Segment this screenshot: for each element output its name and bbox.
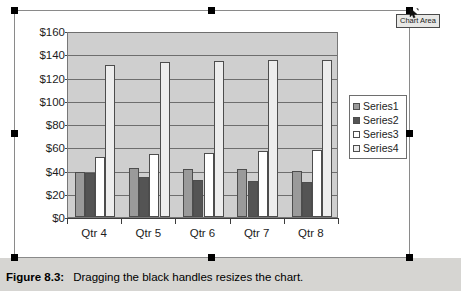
bar-series2-qtr-7[interactable] [248, 181, 258, 217]
bar-series3-qtr-4[interactable] [95, 157, 105, 217]
y-axis-tick-label: $80 [19, 120, 65, 131]
bar-series3-qtr-8[interactable] [312, 150, 322, 217]
x-axis-label-qtr-8: Qtr 8 [284, 227, 338, 240]
figure-caption-text: Dragging the black handles resizes the c… [73, 271, 303, 283]
x-axis-line [67, 218, 339, 219]
legend-swatch-icon [353, 103, 360, 110]
bar-series1-qtr-5[interactable] [129, 168, 139, 217]
chart-object[interactable]: $0$20$40$60$80$100$120$140$160 Series1Se… [14, 10, 410, 258]
y-axis-tick-label: $100 [19, 97, 65, 108]
x-axis-label-qtr-4: Qtr 4 [67, 227, 121, 240]
bar-series4-qtr-5[interactable] [160, 62, 170, 217]
bar-series4-qtr-6[interactable] [214, 61, 224, 217]
plot-area[interactable] [67, 32, 338, 218]
x-axis-label-qtr-5: Qtr 5 [121, 227, 175, 240]
x-axis-label-qtr-6: Qtr 6 [175, 227, 229, 240]
resize-handle-top-left[interactable] [11, 7, 18, 14]
bar-series4-qtr-8[interactable] [322, 60, 332, 217]
y-axis-tick-label: $0 [19, 213, 65, 224]
resize-handle-middle-left[interactable] [11, 130, 18, 137]
bar-series2-qtr-8[interactable] [302, 182, 312, 217]
y-axis-tick-label: $160 [19, 27, 65, 38]
resize-handle-middle-right[interactable] [406, 130, 413, 137]
figure-page: $0$20$40$60$80$100$120$140$160 Series1Se… [0, 0, 461, 291]
y-axis: $0$20$40$60$80$100$120$140$160 [15, 32, 65, 218]
bar-series1-qtr-6[interactable] [183, 169, 193, 217]
x-axis-tick-mark [338, 219, 339, 224]
bar-series3-qtr-5[interactable] [149, 154, 159, 217]
legend-label: Series4 [363, 143, 399, 154]
legend-item-series2[interactable]: Series2 [353, 113, 402, 127]
bar-series4-qtr-4[interactable] [105, 65, 115, 217]
chart-legend[interactable]: Series1Series2Series3Series4 [349, 95, 407, 159]
legend-item-series1[interactable]: Series1 [353, 99, 402, 113]
legend-swatch-icon [353, 117, 360, 124]
legend-item-series3[interactable]: Series3 [353, 127, 402, 141]
bar-series2-qtr-5[interactable] [139, 177, 149, 217]
legend-label: Series3 [363, 129, 399, 140]
resize-handle-bottom-left[interactable] [11, 254, 18, 261]
bar-series2-qtr-4[interactable] [85, 173, 95, 217]
figure-number: Figure 8.3: [6, 271, 64, 283]
legend-label: Series2 [363, 115, 399, 126]
bar-series3-qtr-7[interactable] [258, 151, 268, 217]
figure-caption: Figure 8.3:Dragging the black handles re… [6, 270, 303, 284]
y-axis-tick-label: $140 [19, 50, 65, 61]
resize-handle-top-center[interactable] [208, 7, 215, 14]
bar-chart[interactable]: $0$20$40$60$80$100$120$140$160 Series1Se… [15, 11, 409, 257]
x-axis-tick-mark [284, 219, 285, 224]
legend-label: Series1 [363, 101, 399, 112]
x-axis-tick-mark [121, 219, 122, 224]
legend-item-series4[interactable]: Series4 [353, 141, 402, 155]
bar-series1-qtr-4[interactable] [75, 172, 85, 217]
resize-handle-bottom-center[interactable] [208, 254, 215, 261]
y-axis-tick-label: $20 [19, 190, 65, 201]
x-axis-label-qtr-7: Qtr 7 [230, 227, 284, 240]
y-axis-tick-label: $40 [19, 167, 65, 178]
bar-series1-qtr-8[interactable] [292, 171, 302, 218]
legend-swatch-icon [353, 131, 360, 138]
bar-series2-qtr-6[interactable] [193, 180, 203, 217]
resize-handle-bottom-right[interactable] [406, 254, 413, 261]
legend-swatch-icon [353, 145, 360, 152]
mouse-cursor-icon [409, 5, 419, 16]
y-axis-tick-label: $120 [19, 74, 65, 85]
x-axis-tick-mark [67, 219, 68, 224]
y-axis-tick-label: $60 [19, 143, 65, 154]
gridline [68, 32, 337, 33]
bar-series3-qtr-6[interactable] [204, 153, 214, 217]
bar-series4-qtr-7[interactable] [268, 60, 278, 217]
gridline [68, 55, 337, 56]
bar-series1-qtr-7[interactable] [237, 169, 247, 217]
x-axis-tick-mark [230, 219, 231, 224]
x-axis-tick-mark [175, 219, 176, 224]
